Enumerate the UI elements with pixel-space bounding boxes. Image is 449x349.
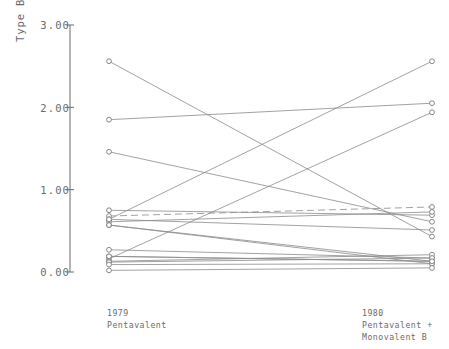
x-label-right-line2: Pentavalent + [362, 320, 433, 330]
series-line [109, 219, 432, 230]
data-point-marker [430, 234, 435, 239]
series-line [109, 268, 432, 270]
data-point-marker [107, 268, 112, 273]
x-label-right-line3: Monovalent B [362, 332, 427, 342]
data-point-marker [430, 110, 435, 115]
data-point-marker [107, 117, 112, 122]
plot-area [0, 0, 449, 349]
data-point-marker [107, 262, 112, 267]
data-point-marker [107, 223, 112, 228]
data-point-marker [107, 247, 112, 252]
data-point-marker [107, 208, 112, 213]
data-point-marker [430, 59, 435, 64]
data-point-marker [430, 228, 435, 233]
series-line [109, 103, 432, 119]
x-axis-label-left: 1979Pentavalent [107, 307, 167, 331]
data-point-marker [430, 219, 435, 224]
data-point-marker [107, 149, 112, 154]
series-line [109, 61, 432, 219]
chart-figure: Type B Titers (geometric mean) 3.00 2.00… [0, 0, 449, 349]
x-label-left-line2: Pentavalent [107, 320, 167, 330]
data-point-marker [430, 259, 435, 264]
data-point-marker [107, 217, 112, 222]
data-point-marker [430, 265, 435, 270]
x-axis-label-right: 1980Pentavalent +Monovalent B [362, 307, 433, 343]
series-line [109, 61, 432, 236]
data-point-marker [430, 209, 435, 214]
data-point-marker [430, 101, 435, 106]
x-label-right-line1: 1980 [362, 308, 384, 318]
series-line [109, 112, 432, 259]
data-point-marker [107, 59, 112, 64]
series-line [109, 264, 432, 265]
series-line [109, 212, 432, 222]
data-point-marker [430, 205, 435, 210]
data-point-marker [107, 254, 112, 259]
x-label-left-line1: 1979 [107, 308, 129, 318]
